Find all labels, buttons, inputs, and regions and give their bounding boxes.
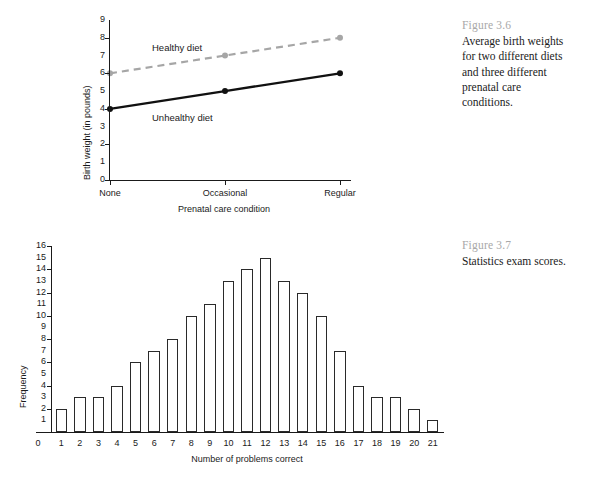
line-chart-x-tick: [110, 181, 111, 185]
histogram-y-axis: [51, 246, 52, 432]
histogram-bar: [316, 316, 328, 432]
line-chart-y-tick-label: 5: [93, 85, 105, 95]
histogram-bar: [130, 362, 142, 432]
histogram-y-tick-label: 3: [30, 391, 46, 401]
figure-3-6-line-chart: 0123456789Birth weight (in pounds)NoneOc…: [0, 8, 420, 208]
histogram-bar: [204, 304, 216, 432]
series-label-healthy-diet: Healthy diet: [152, 42, 202, 53]
histogram-y-tick-label: 14: [30, 263, 46, 273]
histogram-bar: [334, 351, 346, 432]
data-point-marker: [222, 53, 228, 59]
line-chart-y-tick-label: 3: [93, 121, 105, 131]
histogram-bar: [111, 386, 123, 433]
histogram-x-tick-label: 21: [418, 438, 448, 448]
series-label-unhealthy-diet: Unhealthy diet: [152, 112, 213, 123]
histogram-y-tick: [47, 293, 51, 294]
histogram-y-tick-label: 11: [30, 298, 46, 308]
data-point-marker: [222, 88, 228, 94]
line-chart-x-tick: [340, 181, 341, 185]
histogram-y-tick: [47, 316, 51, 317]
histogram-bar: [167, 339, 179, 432]
histogram-x-axis: [36, 432, 444, 433]
histogram-bar: [408, 409, 420, 432]
histogram-y-tick-label: 8: [30, 333, 46, 343]
histogram-bar: [56, 409, 68, 432]
line-chart-x-tick-label: Regular: [295, 188, 385, 198]
histogram-y-tick-label: 12: [30, 287, 46, 297]
histogram-y-tick: [47, 246, 51, 247]
data-point-marker: [337, 70, 343, 76]
line-chart-y-tick-label: 8: [93, 32, 105, 42]
histogram-y-tick-label: 2: [30, 403, 46, 413]
histogram-y-tick-label: 4: [30, 380, 46, 390]
histogram-x-origin-label: 0: [32, 438, 44, 448]
histogram-y-tick-label: 13: [30, 275, 46, 285]
figure-3-7-caption-text: Statistics exam scores.: [462, 254, 574, 269]
line-chart-y-tick-label: 2: [93, 138, 105, 148]
data-point-marker: [337, 35, 343, 41]
line-chart-y-tick-label: 1: [93, 156, 105, 166]
line-chart-y-tick: [105, 144, 109, 145]
histogram-y-tick-label: 5: [30, 368, 46, 378]
histogram-bar: [297, 293, 309, 433]
histogram-y-tick-label: 16: [30, 240, 46, 250]
line-chart-series-layer: [110, 20, 340, 180]
figure-3-7-number: Figure 3.7: [462, 238, 574, 253]
histogram-plot-area: [52, 246, 442, 432]
figure-3-6-caption: Figure 3.6 Average birth weights for two…: [462, 18, 574, 110]
histogram-y-tick: [47, 386, 51, 387]
line-chart-y-axis: [109, 20, 110, 180]
line-chart-y-tick-label: 4: [93, 103, 105, 113]
line-chart-x-tick: [225, 181, 226, 185]
line-chart-y-tick-label: 0: [93, 174, 105, 184]
figure-page: 0123456789Birth weight (in pounds)NoneOc…: [0, 0, 590, 477]
line-chart-plot-area: [110, 20, 340, 180]
line-chart-y-tick: [105, 73, 109, 74]
histogram-y-tick: [47, 339, 51, 340]
histogram-bar: [260, 258, 272, 432]
histogram-bar: [74, 397, 86, 432]
line-chart-y-tick: [105, 109, 109, 110]
figure-3-6-number: Figure 3.6: [462, 18, 574, 33]
line-chart-x-axis: [109, 180, 351, 181]
histogram-y-tick-label: 1: [30, 414, 46, 424]
line-chart-y-tick-label: 7: [93, 50, 105, 60]
histogram-y-tick-label: 9: [30, 321, 46, 331]
histogram-y-tick: [47, 362, 51, 363]
histogram-bar: [223, 281, 235, 432]
histogram-bar: [371, 397, 383, 432]
histogram-bar: [93, 397, 105, 432]
histogram-bar: [390, 397, 402, 432]
line-chart-y-tick-label: 6: [93, 67, 105, 77]
line-chart-y-tick: [105, 38, 109, 39]
histogram-y-tick-label: 6: [30, 356, 46, 366]
histogram-bar: [148, 351, 160, 432]
figure-3-6-caption-text: Average birth weights for two different …: [462, 34, 574, 110]
histogram-bar: [278, 281, 290, 432]
histogram-y-tick-label: 15: [30, 252, 46, 262]
figure-3-7-histogram: 12345678910111213141516Frequency12345678…: [0, 238, 460, 473]
figure-3-7-caption: Figure 3.7 Statistics exam scores.: [462, 238, 574, 269]
histogram-x-axis-title: Number of problems correct: [52, 454, 442, 464]
line-chart-x-tick-label: Occasional: [180, 188, 270, 198]
histogram-y-axis-title: Frequency: [18, 365, 28, 408]
line-chart-y-tick-label: 9: [93, 14, 105, 24]
histogram-bar: [241, 269, 253, 432]
histogram-bar: [186, 316, 198, 432]
line-chart-y-tick: [105, 180, 109, 181]
histogram-bar: [427, 420, 439, 432]
line-chart-x-tick-label: None: [65, 188, 155, 198]
histogram-y-tick: [47, 409, 51, 410]
line-chart-y-axis-title: Birth weight (in pounds): [82, 85, 92, 180]
histogram-bar: [353, 386, 365, 433]
histogram-y-tick-label: 7: [30, 345, 46, 355]
histogram-y-tick: [47, 269, 51, 270]
line-chart-x-axis-title: Prenatal care condition: [109, 204, 339, 214]
histogram-y-tick-label: 10: [30, 310, 46, 320]
